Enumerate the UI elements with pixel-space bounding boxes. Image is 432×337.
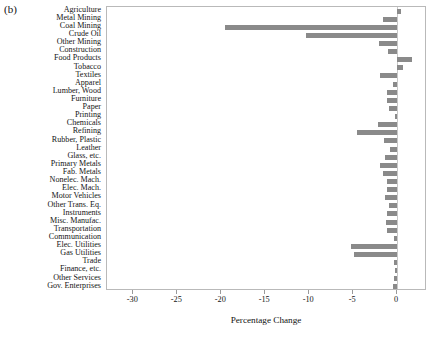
bar [380,163,398,168]
bar [387,90,398,95]
x-tick-mark [396,290,397,294]
bar [394,236,398,241]
bar [351,244,398,249]
x-tick-label: -10 [303,295,314,304]
x-tick-label: -5 [349,295,356,304]
plot-area [106,6,426,290]
x-tick-mark [264,290,265,294]
x-tick-mark [352,290,353,294]
bar [387,211,397,216]
x-tick-label: 0 [394,295,398,304]
category-label: Gov. Enterprises [0,282,101,290]
bar [387,98,398,103]
bar [389,106,397,111]
bars-layer [107,7,425,289]
bar [389,203,397,208]
x-tick-label: -15 [259,295,270,304]
bar [357,130,397,135]
bar [387,179,398,184]
bar [394,276,397,281]
x-tick-label: -20 [215,295,226,304]
bar [380,73,397,78]
bar [383,171,397,176]
x-tick-label: -25 [171,295,182,304]
x-tick-mark [308,290,309,294]
bar [384,138,397,143]
category-axis: AgricultureMetal MiningCoal MiningCrude … [0,6,101,290]
figure-panel-b: (b) AgricultureMetal MiningCoal MiningCr… [0,0,432,337]
bar [379,41,397,46]
x-tick-mark [220,290,221,294]
x-tick-label: -30 [127,295,138,304]
bar [386,220,397,225]
bar [385,195,397,200]
bar [395,114,397,119]
bar [387,187,397,192]
bar [387,228,398,233]
bar [225,25,397,30]
bar [393,284,397,289]
bar [306,33,397,38]
bar [395,268,397,273]
bar [394,260,398,265]
bar [383,17,397,22]
bar [397,65,403,70]
x-axis: -30-25-20-15-10-50 [106,290,426,312]
bar [397,9,401,14]
x-tick-mark [176,290,177,294]
bar [388,49,397,54]
bar [397,57,412,62]
x-tick-mark [132,290,133,294]
bar [378,122,397,127]
bar [390,147,397,152]
x-axis-title: Percentage Change [106,315,426,325]
bar [385,155,397,160]
bar [393,82,397,87]
bar [354,252,397,257]
